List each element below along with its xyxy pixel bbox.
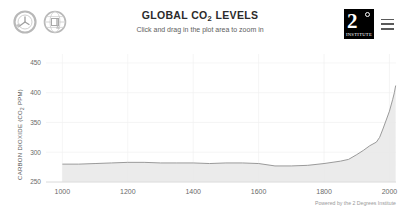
- clock-icon: [12, 8, 38, 36]
- y-tick-label: 450: [30, 59, 41, 66]
- x-tick-label: 1400: [185, 188, 201, 195]
- degree-symbol-icon: [365, 12, 370, 17]
- hamburger-menu-icon[interactable]: [381, 19, 394, 30]
- title-block: GLOBAL CO2 LEVELS Click and drag in the …: [100, 9, 300, 33]
- x-tick-label: 1200: [120, 188, 136, 195]
- logo-block: 2 INSTITUTE: [344, 9, 394, 39]
- logo-numeral: 2: [347, 8, 358, 34]
- data-series-layer[interactable]: [62, 86, 395, 182]
- globe-icon: [42, 8, 68, 36]
- x-tick-label: 1600: [251, 188, 267, 195]
- page-title: GLOBAL CO2 LEVELS: [100, 9, 300, 21]
- chart-plot-container[interactable]: CARBON DIOXIDE (CO2 PPM) 250300350400450…: [0, 48, 400, 219]
- y-axis-title-tail: PPM): [17, 89, 23, 107]
- x-tick-label: 1800: [316, 188, 332, 195]
- chart-hint-text: Click and drag in the plot area to zoom …: [100, 26, 300, 33]
- page-title-subscript: 2: [208, 14, 213, 23]
- y-tick-label: 300: [30, 149, 41, 156]
- series-line-atmospheric-co2[interactable]: [62, 86, 395, 166]
- y-axis-title: CARBON DIOXIDE (CO2 PPM): [17, 89, 25, 180]
- brand-icon-group: [12, 8, 68, 36]
- y-tick-label: 250: [30, 178, 41, 185]
- y-axis-title-main: CARBON DIOXIDE (CO: [17, 110, 23, 180]
- menu-bar-1: [381, 19, 394, 21]
- area-fill: [62, 86, 395, 182]
- y-tick-label: 350: [30, 119, 41, 126]
- menu-bar-3: [381, 28, 394, 30]
- menu-bar-2: [381, 23, 394, 25]
- x-tick-label: 2000: [382, 188, 398, 195]
- y-axis-tick-labels: 250300350400450: [30, 59, 41, 185]
- x-tick-label: 1000: [55, 188, 71, 195]
- page-title-tail: LEVELS: [212, 9, 258, 21]
- y-tick-label: 400: [30, 89, 41, 96]
- co2-area-chart[interactable]: CARBON DIOXIDE (CO2 PPM) 250300350400450…: [0, 48, 400, 219]
- x-axis-tick-labels: 100012001400160018002000: [55, 188, 398, 195]
- chart-header: GLOBAL CO2 LEVELS Click and drag in the …: [0, 0, 400, 48]
- two-degrees-institute-logo[interactable]: 2 INSTITUTE: [344, 9, 374, 39]
- page-title-main: GLOBAL CO: [142, 9, 208, 21]
- credit-label: Powered by the 2 Degrees Institute: [315, 200, 396, 206]
- logo-wordmark: INSTITUTE: [344, 32, 374, 37]
